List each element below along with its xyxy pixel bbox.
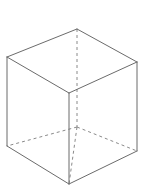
cube-figure — [0, 0, 151, 191]
figure-background — [0, 0, 151, 191]
